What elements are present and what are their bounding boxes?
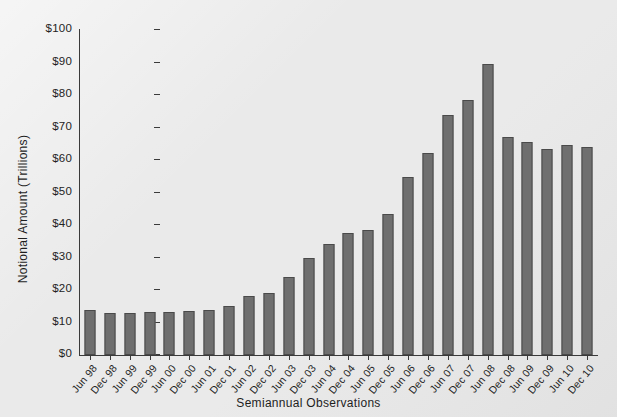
bar[interactable]: [462, 100, 473, 355]
x-axis-tick-mark: [587, 355, 588, 360]
bar-slot: Jun 01: [199, 30, 219, 355]
x-axis-tick-mark: [110, 355, 111, 360]
y-axis-tick-label: $10: [52, 315, 72, 327]
bar-slot: Dec 04: [339, 30, 359, 355]
bar-slot: Dec 08: [498, 30, 518, 355]
x-axis-tick-mark: [508, 355, 509, 360]
y-axis-tick-label: $100: [46, 22, 72, 34]
x-axis-tick-mark: [428, 355, 429, 360]
bar[interactable]: [84, 310, 95, 355]
bar-slot: Dec 99: [140, 30, 160, 355]
x-axis-tick-mark: [269, 355, 270, 360]
y-axis-title-text: Notional Amount (Trillions): [16, 134, 30, 282]
bar[interactable]: [542, 149, 553, 355]
bar-slot: Dec 02: [259, 30, 279, 355]
bar-slot: Jun 04: [319, 30, 339, 355]
y-axis-tick-label: $80: [52, 87, 72, 99]
x-axis-tick-mark: [547, 355, 548, 360]
bar[interactable]: [244, 296, 255, 355]
bar[interactable]: [383, 214, 394, 355]
bar[interactable]: [224, 306, 235, 355]
bar-slot: Jun 05: [358, 30, 378, 355]
y-axis-tick-label: $70: [52, 120, 72, 132]
x-axis-tick-mark: [527, 355, 528, 360]
x-axis-tick-mark: [229, 355, 230, 360]
bar[interactable]: [343, 233, 354, 355]
y-axis-tick-label: $60: [52, 152, 72, 164]
x-axis-tick-mark: [567, 355, 568, 360]
x-axis-tick-mark: [209, 355, 210, 360]
y-axis-tick-label: $20: [52, 282, 72, 294]
x-axis-tick-mark: [249, 355, 250, 360]
bar-slot: Dec 03: [299, 30, 319, 355]
bar[interactable]: [204, 310, 215, 355]
bar-slot: Dec 05: [378, 30, 398, 355]
bar-slot: Jun 99: [120, 30, 140, 355]
bar[interactable]: [104, 313, 115, 355]
bar[interactable]: [502, 137, 513, 355]
bar-slot: Dec 10: [577, 30, 597, 355]
bar-slot: Jun 00: [160, 30, 180, 355]
x-axis-tick-mark: [150, 355, 151, 360]
bar[interactable]: [363, 230, 374, 355]
plot-area: $100$90$80$70$60$50$40$30$20$10$0 Jun 98…: [80, 30, 597, 355]
bar-slot: Jun 98: [80, 30, 100, 355]
bar[interactable]: [323, 244, 334, 355]
bar[interactable]: [164, 312, 175, 355]
x-axis-tick-mark: [90, 355, 91, 360]
x-axis-tick-mark: [130, 355, 131, 360]
y-axis-tick-label: $30: [52, 250, 72, 262]
bar[interactable]: [283, 277, 294, 355]
bar[interactable]: [184, 311, 195, 355]
bar[interactable]: [422, 153, 433, 355]
x-axis-tick-mark: [408, 355, 409, 360]
bar[interactable]: [562, 145, 573, 355]
bar-slot: Jun 02: [239, 30, 259, 355]
bar[interactable]: [403, 177, 414, 355]
chart-figure: Notional Amount (Trillions) $100$90$80$7…: [0, 0, 617, 417]
bar-slot: Dec 98: [100, 30, 120, 355]
y-axis-title: Notional Amount (Trillions): [12, 0, 34, 417]
x-axis-tick-mark: [309, 355, 310, 360]
x-axis-tick-mark: [169, 355, 170, 360]
bar-slot: Jun 03: [279, 30, 299, 355]
bar[interactable]: [442, 115, 453, 355]
y-axis-tick-label: $50: [52, 185, 72, 197]
bar-series: Jun 98Dec 98Jun 99Dec 99Jun 00Dec 00Jun …: [80, 30, 597, 355]
x-axis-tick-mark: [348, 355, 349, 360]
y-axis-tick-label: $90: [52, 55, 72, 67]
x-axis-tick-mark: [448, 355, 449, 360]
bar[interactable]: [582, 147, 593, 355]
bar-slot: Dec 06: [418, 30, 438, 355]
x-axis-tick-mark: [329, 355, 330, 360]
bar-slot: Dec 01: [219, 30, 239, 355]
bar[interactable]: [522, 142, 533, 355]
bar-slot: Jun 07: [438, 30, 458, 355]
bar[interactable]: [263, 293, 274, 355]
bar-slot: Dec 07: [458, 30, 478, 355]
y-axis-tick-label: $0: [59, 347, 72, 359]
bar-slot: Jun 08: [478, 30, 498, 355]
bar-slot: Jun 06: [398, 30, 418, 355]
bar-slot: Dec 09: [537, 30, 557, 355]
x-axis-tick-mark: [189, 355, 190, 360]
bar[interactable]: [482, 64, 493, 355]
x-axis-line: [79, 355, 598, 356]
bar-slot: Jun 10: [557, 30, 577, 355]
y-axis-tick-label: $40: [52, 217, 72, 229]
bar[interactable]: [124, 313, 135, 355]
x-axis-tick-mark: [468, 355, 469, 360]
bar-slot: Dec 00: [179, 30, 199, 355]
bar[interactable]: [144, 312, 155, 355]
x-axis-tick-mark: [289, 355, 290, 360]
x-axis-tick-mark: [488, 355, 489, 360]
x-axis-title: Semiannual Observations: [0, 396, 617, 410]
x-axis-tick-mark: [388, 355, 389, 360]
bar-slot: Jun 09: [517, 30, 537, 355]
x-axis-tick-mark: [368, 355, 369, 360]
bar[interactable]: [303, 258, 314, 355]
